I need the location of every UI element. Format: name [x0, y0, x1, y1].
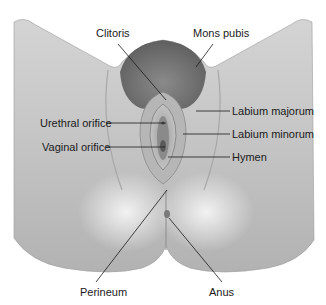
label-hymen: Hymen: [232, 151, 267, 163]
vaginal-orifice-shape: [160, 140, 166, 152]
anatomy-figure: Clitoris Mons pubis Labium majorum Ureth…: [0, 0, 326, 305]
label-mons-pubis: Mons pubis: [193, 27, 249, 39]
label-vaginal-orifice: Vaginal orifice: [42, 141, 110, 153]
label-clitoris: Clitoris: [96, 27, 130, 39]
anus-shape: [164, 210, 170, 218]
label-labium-majorum: Labium majorum: [232, 105, 314, 117]
label-anus: Anus: [209, 286, 234, 298]
label-urethral-orifice: Urethral orifice: [40, 117, 112, 129]
label-perineum: Perineum: [80, 286, 127, 298]
label-labium-minorum: Labium minorum: [232, 128, 314, 140]
